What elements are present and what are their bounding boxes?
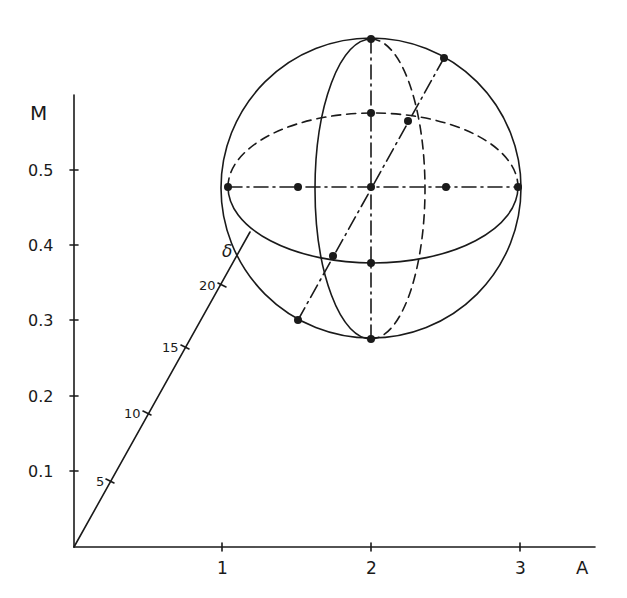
y-tick-label: 0.5 [28,161,53,180]
diagonal-tick-label: 20 [199,278,216,293]
sphere-point-diag-front-equator [329,252,337,260]
x-tick-label: 3 [515,558,526,578]
meridian-back [371,39,425,339]
diagonal-line [74,232,250,547]
x-tick-label: 1 [217,558,228,578]
x-axis-ticks: 123 [217,543,526,578]
sphere-point-top-pole [367,35,375,43]
x-tick-label: 2 [366,558,377,578]
sphere-point-equator-right-inner [442,183,450,191]
sphere-point-right [514,183,522,191]
sphere-point-back-equator-top [367,109,375,117]
y-tick-label: 0.1 [28,462,53,481]
sphere-point-diag-back-equator [404,117,412,125]
sphere-parameter-diagram: 0.10.20.30.40.5 123 M A 5101520 δ [0,0,627,598]
sphere-point-front-equator-bottom [367,259,375,267]
sphere-point-left [224,183,232,191]
equator-back [228,113,518,187]
y-axis-label: M [30,101,47,125]
sphere-point-bottom-pole [367,335,375,343]
sphere-point-diag-upper-circle [440,54,448,62]
axes: 0.10.20.30.40.5 123 M A [28,95,595,578]
sphere-point-equator-left-inner [294,183,302,191]
diagonal-tick-label: 5 [96,474,104,489]
diagonal-tick-label: 10 [124,406,141,421]
sphere [221,35,522,343]
diagonal-tick-label: 15 [162,340,179,355]
meridian-front [315,39,371,339]
y-tick-label: 0.2 [28,387,53,406]
delta-label: δ [222,241,232,261]
y-tick-label: 0.4 [28,236,53,255]
y-tick-label: 0.3 [28,311,53,330]
x-axis-label: A [576,557,589,578]
diagonal-scale: 5101520 δ [74,232,250,547]
y-axis-ticks: 0.10.20.30.40.5 [28,161,78,481]
sphere-point-center [367,183,375,191]
equator-front [228,187,518,263]
sphere-point-diag-lower-circle [294,316,302,324]
